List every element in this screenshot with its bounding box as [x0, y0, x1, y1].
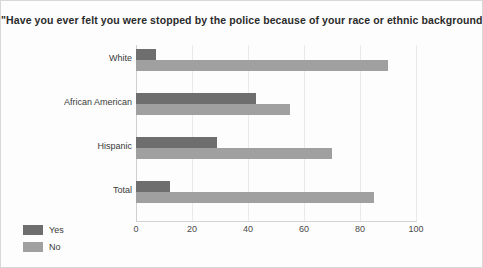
x-tick-label-60: 60 [299, 224, 309, 234]
y-axis-label-african-american: African American [12, 97, 132, 107]
x-tick-label-0: 0 [133, 224, 138, 234]
bar-total-yes [136, 181, 170, 192]
plot-area [136, 45, 416, 221]
bar-hispanic-yes [136, 137, 217, 148]
x-tick-label-20: 20 [187, 224, 197, 234]
legend-swatch-yes [23, 225, 43, 235]
bar-african-american-yes [136, 93, 256, 104]
legend-label-yes: Yes [49, 225, 64, 235]
legend-swatch-no [23, 242, 43, 252]
bar-group-white [136, 49, 416, 71]
x-tick-label-40: 40 [243, 224, 253, 234]
bar-white-no [136, 60, 388, 71]
legend-item-yes: Yes [23, 223, 64, 237]
bar-group-hispanic [136, 137, 416, 159]
bar-total-no [136, 192, 374, 203]
legend-label-no: No [49, 242, 61, 252]
x-tick-label-80: 80 [355, 224, 365, 234]
x-tick-label-100: 100 [408, 224, 423, 234]
y-axis-label-total: Total [12, 185, 132, 195]
chart-figure: "Have you ever felt you were stopped by … [0, 0, 483, 268]
y-axis-label-white: White [12, 53, 132, 63]
x-axis-line [136, 221, 417, 222]
bar-hispanic-no [136, 148, 332, 159]
bar-group-total [136, 181, 416, 203]
gridline-100 [416, 45, 417, 221]
bar-white-yes [136, 49, 156, 60]
chart-title: "Have you ever felt you were stopped by … [1, 14, 482, 26]
bar-group-african-american [136, 93, 416, 115]
y-axis-label-hispanic: Hispanic [12, 141, 132, 151]
legend-item-no: No [23, 240, 64, 254]
bar-african-american-no [136, 104, 290, 115]
y-axis-category-labels: WhiteAfrican AmericanHispanicTotal [6, 45, 132, 221]
chart-legend: YesNo [23, 223, 64, 257]
